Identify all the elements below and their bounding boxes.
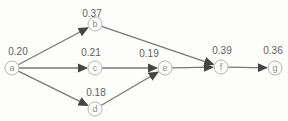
- node-g: g0.36: [263, 45, 283, 75]
- edge-e-f: [172, 67, 213, 68]
- edge-f-g: [228, 67, 267, 68]
- node-a: a0.20: [5, 46, 28, 75]
- edge-a-d: [18, 71, 87, 105]
- value-label-c: 0.21: [81, 47, 101, 58]
- node-letter-b: b: [92, 19, 97, 29]
- node-d: d0.18: [86, 87, 106, 116]
- edge-d-e: [101, 72, 158, 105]
- node-letter-a: a: [9, 63, 14, 73]
- value-label-a: 0.20: [8, 46, 28, 57]
- value-label-d: 0.18: [86, 87, 106, 98]
- node-letter-e: e: [162, 63, 167, 73]
- node-letter-c: c: [93, 63, 98, 73]
- graph-diagram: a0.20b0.37c0.21d0.18e0.19f0.39g0.36: [0, 0, 288, 121]
- value-label-b: 0.37: [82, 8, 102, 19]
- node-c: c0.21: [81, 47, 102, 75]
- value-label-e: 0.19: [139, 48, 159, 59]
- edge-a-b: [18, 28, 87, 65]
- node-f: f0.39: [212, 45, 232, 74]
- node-letter-g: g: [272, 63, 277, 73]
- node-e: e0.19: [139, 48, 172, 75]
- value-label-f: 0.39: [212, 45, 232, 56]
- value-label-g: 0.36: [263, 45, 283, 56]
- node-letter-d: d: [92, 104, 97, 114]
- node-b: b0.37: [82, 8, 102, 31]
- graph-svg: a0.20b0.37c0.21d0.18e0.19f0.39g0.36: [0, 0, 288, 121]
